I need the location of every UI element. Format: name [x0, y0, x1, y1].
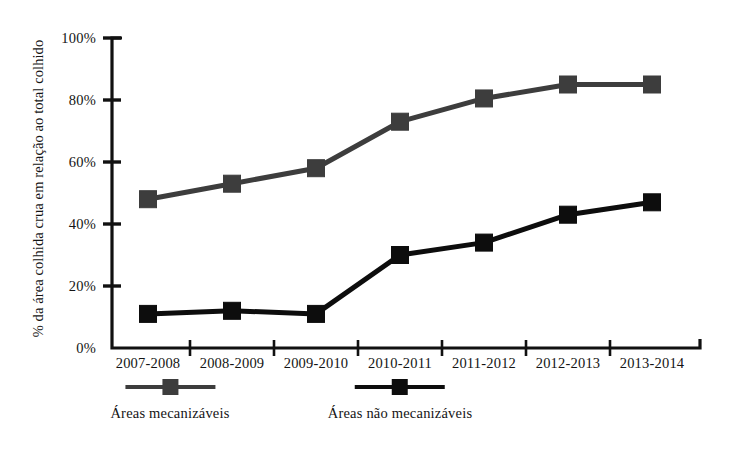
data-point-marker [644, 76, 661, 93]
legend-swatch [355, 378, 445, 396]
data-point-marker [476, 90, 493, 107]
x-axis-tick-label: 2010-2011 [368, 355, 432, 372]
x-axis-tick-labels: 2007-20082008-20092009-20102010-20112011… [0, 355, 736, 379]
data-point-marker [560, 206, 577, 223]
chart-legend: Áreas mecanizáveisÁreas não mecanizáveis [0, 378, 736, 438]
x-axis-tick-label: 2011-2012 [452, 355, 516, 372]
legend-label: Áreas não mecanizáveis [328, 405, 473, 422]
data-point-marker [392, 247, 409, 264]
legend-square-marker-icon [162, 379, 178, 395]
legend-item-2[interactable]: Áreas não mecanizáveis [328, 378, 473, 422]
data-point-marker [308, 160, 325, 177]
legend-swatch [125, 378, 215, 396]
x-axis-tick-label: 2008-2009 [200, 355, 265, 372]
x-axis-tick-label: 2012-2013 [536, 355, 601, 372]
chart-figure: % da área colhida crua em relação ao tot… [0, 0, 736, 458]
data-point-marker [476, 234, 493, 251]
legend-label: Áreas mecanizáveis [110, 405, 229, 422]
data-point-marker [392, 113, 409, 130]
data-point-marker [140, 191, 157, 208]
legend-item-1[interactable]: Áreas mecanizáveis [110, 378, 229, 422]
x-axis-tick-label: 2009-2010 [284, 355, 349, 372]
x-axis-tick-label: 2007-2008 [116, 355, 181, 372]
data-point-marker [224, 302, 241, 319]
data-point-marker [140, 305, 157, 322]
data-point-marker [308, 305, 325, 322]
data-point-marker [224, 175, 241, 192]
data-point-marker [560, 76, 577, 93]
legend-square-marker-icon [392, 379, 408, 395]
x-axis-tick-label: 2013-2014 [620, 355, 685, 372]
data-point-marker [644, 194, 661, 211]
